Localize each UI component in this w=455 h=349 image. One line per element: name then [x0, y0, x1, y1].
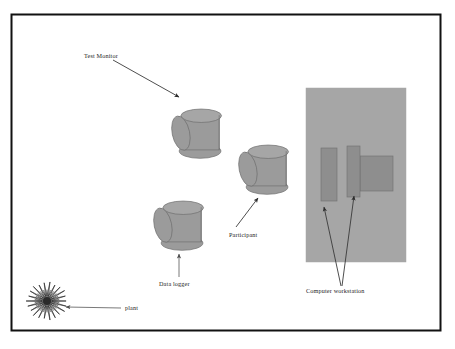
monitor-right: [360, 156, 393, 191]
label-computer-workstation: Computer workstation: [306, 288, 365, 295]
workstation-group: [306, 88, 406, 262]
label-plant: plant: [125, 305, 138, 312]
diagram-graphics: [0, 0, 455, 349]
label-participant: Participant: [229, 232, 257, 239]
monitor-middle: [347, 146, 360, 197]
monitor-left: [321, 148, 337, 201]
label-data-logger: Data logger: [159, 281, 190, 288]
diagram-canvas: Test Monitor Participant Data logger Com…: [0, 0, 455, 349]
label-test-monitor: Test Monitor: [84, 53, 118, 60]
